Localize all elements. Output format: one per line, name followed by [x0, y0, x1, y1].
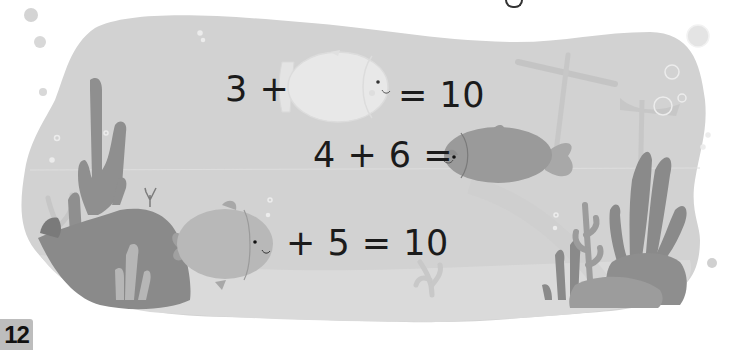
equation-1-right: = 10 — [398, 78, 485, 113]
underwater-scene: 3 + = 10 4 + 6 = + 5 = 10 12 — [0, 0, 731, 350]
equation-2-left: 4 + 6 = — [313, 138, 453, 173]
equation-1-left: 3 + — [225, 72, 289, 107]
page-number: 12 — [0, 319, 33, 350]
equation-3-right: + 5 = 10 — [286, 226, 449, 261]
scene-illustration — [0, 0, 731, 350]
